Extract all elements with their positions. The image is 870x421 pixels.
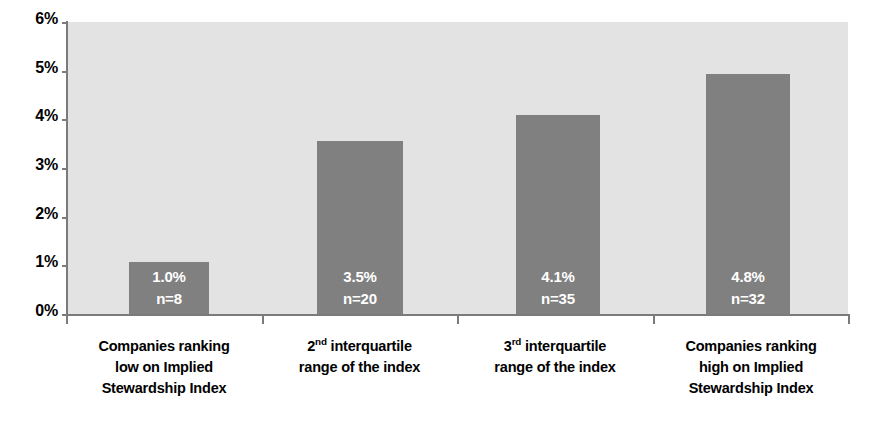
- y-axis-tick-label: 6%: [35, 10, 58, 28]
- bar-sample-size-label: n=32: [706, 288, 790, 309]
- x-axis-end-tick: [848, 316, 850, 324]
- plot-area: 1.0% n=8 3.5% n=20 4.1% n=35 4.8% n=32: [68, 22, 848, 314]
- bar-3[interactable]: 4.1% n=35: [516, 115, 600, 314]
- bar-1[interactable]: 1.0% n=8: [129, 262, 209, 314]
- bar-2-labels: 3.5% n=20: [317, 266, 403, 309]
- category-label-line: Companies ranking: [66, 336, 262, 357]
- category-label-line: range of the index: [457, 357, 653, 378]
- y-axis-tick-label: 3%: [35, 156, 58, 174]
- x-axis-tick-2: [457, 316, 459, 324]
- category-label-line: 2nd interquartile: [262, 336, 457, 357]
- x-axis-tick-1: [262, 316, 264, 324]
- category-label-3: 3rd interquartile range of the index: [457, 336, 653, 378]
- category-label-line: 3rd interquartile: [457, 336, 653, 357]
- category-label-1: Companies ranking low on Implied Steward…: [66, 336, 262, 399]
- y-axis-tick-label: 4%: [35, 107, 58, 125]
- bar-sample-size-label: n=20: [317, 288, 403, 309]
- category-label-line: high on Implied: [653, 357, 849, 378]
- ordinal-suffix: nd: [315, 336, 327, 347]
- ordinal-number: 3: [504, 338, 512, 354]
- y-axis-tick-label: 2%: [35, 205, 58, 223]
- bar-sample-size-label: n=35: [516, 288, 600, 309]
- ordinal-suffix: rd: [512, 336, 521, 347]
- x-axis-start-tick: [66, 316, 68, 324]
- bar-4[interactable]: 4.8% n=32: [706, 74, 790, 314]
- bar-chart: 6% 5% 4% 3% 2% 1% 0% 1.0% n=8 3.5: [0, 0, 870, 421]
- bar-value-label: 4.8%: [706, 266, 790, 287]
- bar-value-label: 4.1%: [516, 266, 600, 287]
- category-label-line: Stewardship Index: [653, 378, 849, 399]
- category-label-line-rest: interquartile: [327, 338, 412, 354]
- bar-sample-size-label: n=8: [129, 288, 209, 309]
- y-axis-tick-label: 5%: [35, 59, 58, 77]
- category-label-line: low on Implied: [66, 357, 262, 378]
- bar-1-labels: 1.0% n=8: [129, 266, 209, 309]
- category-label-4: Companies ranking high on Implied Stewar…: [653, 336, 849, 399]
- ordinal-number: 2: [307, 338, 315, 354]
- bar-2[interactable]: 3.5% n=20: [317, 141, 403, 314]
- category-label-2: 2nd interquartile range of the index: [262, 336, 457, 378]
- y-axis-tick-label: 1%: [35, 253, 58, 271]
- y-axis-tick-label: 0%: [35, 302, 58, 320]
- bar-value-label: 3.5%: [317, 266, 403, 287]
- x-axis-tick-3: [653, 316, 655, 324]
- bar-3-labels: 4.1% n=35: [516, 266, 600, 309]
- bar-value-label: 1.0%: [129, 266, 209, 287]
- bar-4-labels: 4.8% n=32: [706, 266, 790, 309]
- category-label-line: range of the index: [262, 357, 457, 378]
- category-label-line-rest: interquartile: [521, 338, 606, 354]
- category-label-line: Companies ranking: [653, 336, 849, 357]
- category-label-line: Stewardship Index: [66, 378, 262, 399]
